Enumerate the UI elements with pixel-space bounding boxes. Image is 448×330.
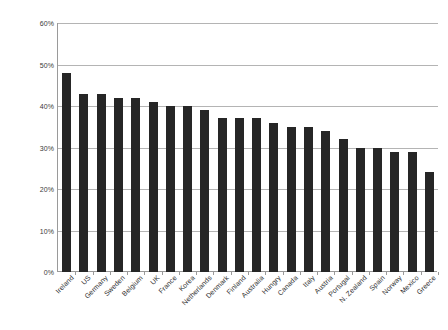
bar xyxy=(79,94,88,272)
bar xyxy=(321,131,330,272)
bar xyxy=(149,102,158,272)
bar xyxy=(373,148,382,273)
bar xyxy=(390,152,399,272)
plot-area xyxy=(57,23,437,272)
y-axis-tick-label: 20% xyxy=(40,186,54,193)
bar xyxy=(269,123,278,272)
bar xyxy=(218,118,227,272)
x-axis-category-label: US xyxy=(80,274,92,286)
y-axis-tick-label: 50% xyxy=(40,61,54,68)
x-axis-category-label: France xyxy=(157,274,178,295)
x-axis-category-label: UK xyxy=(149,274,161,286)
bar xyxy=(252,118,261,272)
bar xyxy=(339,139,348,272)
bar xyxy=(200,110,209,272)
bar-series xyxy=(58,23,438,272)
y-axis-tick-label: 40% xyxy=(40,103,54,110)
x-axis-category-labels: IrelandUSGermanySwedenBelgiumUKFranceKor… xyxy=(57,274,437,330)
bar xyxy=(114,98,123,272)
y-axis-tick-label: 30% xyxy=(40,144,54,151)
x-axis-tick xyxy=(438,272,439,275)
bar xyxy=(166,106,175,272)
bar xyxy=(287,127,296,272)
bar xyxy=(356,148,365,273)
bar xyxy=(304,127,313,272)
bar xyxy=(183,106,192,272)
x-axis-category-label: Ireland xyxy=(54,274,75,295)
bar xyxy=(425,172,434,272)
bar xyxy=(408,152,417,272)
bar xyxy=(97,94,106,272)
bar-chart: 0%10%20%30%40%50%60% IrelandUSGermanySwe… xyxy=(0,0,448,330)
y-axis-tick-label: 10% xyxy=(40,227,54,234)
y-axis-tick-label: 60% xyxy=(40,20,54,27)
bar xyxy=(235,118,244,272)
x-axis-category-label: Italy xyxy=(302,274,316,288)
bar xyxy=(62,73,71,272)
y-axis-tick-label: 0% xyxy=(44,269,54,276)
bar xyxy=(131,98,140,272)
